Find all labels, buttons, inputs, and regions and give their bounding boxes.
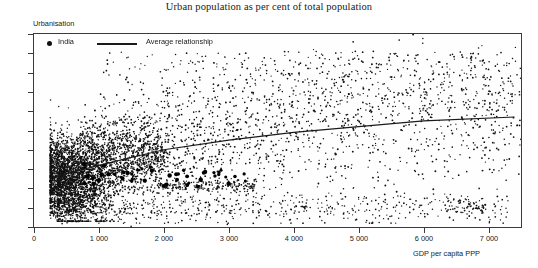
legend-india-dot-icon (47, 41, 52, 46)
legend-average-label: Average relationship (146, 37, 213, 46)
plot-area (33, 33, 522, 228)
x-axis-label: GDP per capita PPP (413, 249, 480, 258)
x-tick-label: 6 000 (396, 234, 451, 243)
y-tick-mark (28, 34, 33, 35)
x-tick-label: 4 000 (266, 234, 321, 243)
x-tick-label: 0 (6, 234, 61, 243)
x-tick-mark (489, 228, 490, 233)
y-tick-mark (28, 53, 33, 54)
x-tick-mark (424, 228, 425, 233)
x-tick-label: 3 000 (201, 234, 256, 243)
chart-title: Urban population as per cent of total po… (0, 1, 538, 12)
x-tick-mark (229, 228, 230, 233)
scatter-canvas (34, 34, 521, 227)
y-tick-mark (28, 111, 33, 112)
y-axis-label: Urbanisation (33, 19, 74, 28)
y-tick-mark (28, 208, 33, 209)
x-tick-mark (359, 228, 360, 233)
legend-average-line-icon (97, 43, 137, 45)
x-tick-mark (99, 228, 100, 233)
chart-figure: Urban population as per cent of total po… (0, 0, 538, 268)
x-tick-mark (34, 228, 35, 233)
x-tick-label: 7 000 (461, 234, 516, 243)
x-tick-label: 1 000 (71, 234, 126, 243)
x-tick-label: 5 000 (331, 234, 386, 243)
y-tick-mark (28, 169, 33, 170)
legend-india-label: India (58, 37, 74, 46)
y-tick-mark (28, 131, 33, 132)
y-tick-mark (28, 92, 33, 93)
y-tick-mark (28, 150, 33, 151)
x-tick-label: 2 000 (136, 234, 191, 243)
x-tick-mark (294, 228, 295, 233)
y-tick-mark (28, 73, 33, 74)
y-tick-mark (28, 188, 33, 189)
x-tick-mark (164, 228, 165, 233)
y-tick-mark (28, 227, 33, 228)
